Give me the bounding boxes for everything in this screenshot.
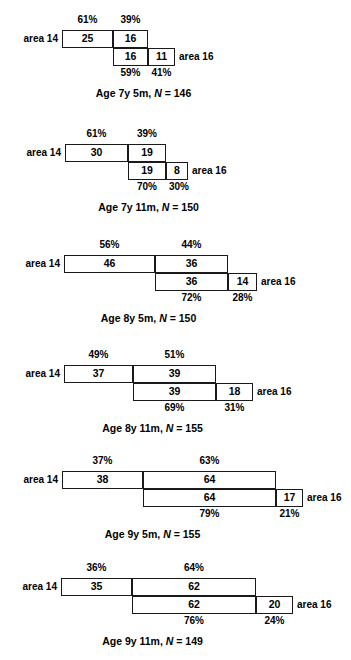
bottom-percent-left: 69% xyxy=(133,402,216,414)
bottom-cell-left-value: 36 xyxy=(155,273,228,290)
bottom-percent-left: 70% xyxy=(128,181,166,193)
bottom-percent-right: 31% xyxy=(216,402,253,414)
bottom-percent-right: 30% xyxy=(166,181,192,193)
axis-label-area-14: area 14 xyxy=(0,147,61,159)
panel-age-7y-11m: 61% 39% area 14 30 19 19 8 area 16 70% 3… xyxy=(0,110,351,220)
bottom-percent-right: 21% xyxy=(276,508,303,520)
panel-age-9y-11m: 36% 64% area 14 35 62 62 20 area 16 76% … xyxy=(0,550,351,660)
axis-label-area-16: area 16 xyxy=(192,165,252,177)
top-cell-left-value: 25 xyxy=(62,30,113,47)
panel-caption: Age 8y 5m, N = 150 xyxy=(0,312,297,324)
bottom-cell-left-value: 39 xyxy=(133,383,216,400)
caption-suffix: = 150 xyxy=(167,312,197,324)
bottom-percent-right: 28% xyxy=(228,292,257,304)
bottom-cell-left-value: 19 xyxy=(128,162,166,179)
axis-label-area-16: area 16 xyxy=(307,492,351,504)
top-cell-left-value: 38 xyxy=(62,471,143,488)
caption-suffix: = 150 xyxy=(169,201,199,213)
bottom-cell-right-value: 8 xyxy=(166,162,188,179)
bottom-cell-right-value: 18 xyxy=(216,383,253,400)
caption-prefix: Age 8y 11m, xyxy=(102,422,166,434)
bottom-cell-right-value: 20 xyxy=(256,596,293,613)
axis-label-area-14: area 14 xyxy=(0,33,58,45)
axis-label-area-16: area 16 xyxy=(261,276,321,288)
caption-prefix: Age 9y 11m, xyxy=(102,635,166,647)
bottom-cell-left-value: 64 xyxy=(143,489,276,506)
caption-suffix: = 149 xyxy=(173,635,203,647)
top-percent-left: 36% xyxy=(61,562,132,574)
top-percent-left: 49% xyxy=(64,349,133,361)
bottom-cell-left-value: 62 xyxy=(132,596,256,613)
top-cell-left-value: 37 xyxy=(64,365,133,382)
panel-age-8y-11m: 49% 51% area 14 37 39 39 18 area 16 69% … xyxy=(0,335,351,445)
caption-symbol-N: N xyxy=(163,528,171,540)
panel-age-8y-5m: 56% 44% area 14 46 36 36 14 area 16 72% … xyxy=(0,225,351,335)
bottom-percent-right: 24% xyxy=(256,615,293,627)
bottom-percent-left: 72% xyxy=(155,292,228,304)
bottom-percent-left: 59% xyxy=(113,67,148,79)
panel-caption: Age 9y 5m, N = 155 xyxy=(0,528,305,540)
top-percent-right: 51% xyxy=(133,349,216,361)
caption-symbol-N: N xyxy=(159,312,167,324)
top-percent-right: 64% xyxy=(132,562,256,574)
top-percent-left: 61% xyxy=(62,14,113,26)
axis-label-area-14: area 14 xyxy=(0,258,60,270)
axis-label-area-14: area 14 xyxy=(0,368,60,380)
top-percent-left: 37% xyxy=(62,455,143,467)
top-cell-right-value: 36 xyxy=(155,255,228,272)
top-cell-left-value: 46 xyxy=(64,255,155,272)
caption-suffix: = 155 xyxy=(173,422,203,434)
top-cell-right-value: 39 xyxy=(133,365,216,382)
caption-suffix: = 146 xyxy=(162,87,192,99)
bottom-percent-right: 41% xyxy=(148,67,175,79)
panel-age-9y-5m: 37% 63% area 14 38 64 64 17 area 16 79% … xyxy=(0,445,351,550)
top-percent-right: 39% xyxy=(128,128,166,140)
axis-label-area-16: area 16 xyxy=(179,51,239,63)
top-cell-right-value: 64 xyxy=(143,471,276,488)
bottom-cell-right-value: 14 xyxy=(228,273,257,290)
top-cell-left-value: 35 xyxy=(61,578,132,595)
panel-caption: Age 7y 11m, N = 150 xyxy=(0,201,297,213)
top-percent-left: 61% xyxy=(65,128,128,140)
top-percent-right: 44% xyxy=(155,239,228,251)
bottom-cell-right-value: 11 xyxy=(148,48,175,65)
top-cell-left-value: 30 xyxy=(65,144,128,161)
top-percent-right: 63% xyxy=(143,455,276,467)
panel-caption: Age 8y 11m, N = 155 xyxy=(0,422,305,434)
panel-caption: Age 9y 11m, N = 149 xyxy=(0,635,305,647)
caption-prefix: Age 9y 5m, xyxy=(105,528,163,540)
top-cell-right-value: 19 xyxy=(128,144,166,161)
axis-label-area-16: area 16 xyxy=(297,599,351,611)
bottom-percent-left: 76% xyxy=(132,615,256,627)
bottom-cell-right-value: 17 xyxy=(276,489,303,506)
axis-label-area-14: area 14 xyxy=(0,474,58,486)
caption-symbol-N: N xyxy=(154,87,162,99)
bottom-cell-left-value: 16 xyxy=(113,48,148,65)
caption-prefix: Age 8y 5m, xyxy=(101,312,159,324)
top-percent-left: 56% xyxy=(64,239,155,251)
caption-prefix: Age 7y 11m, xyxy=(98,201,162,213)
panel-age-7y-5m: 61% 39% area 14 25 16 16 11 area 16 59% … xyxy=(0,0,351,110)
top-percent-right: 39% xyxy=(113,14,148,26)
caption-suffix: = 155 xyxy=(171,528,201,540)
axis-label-area-16: area 16 xyxy=(257,386,317,398)
axis-label-area-14: area 14 xyxy=(0,581,57,593)
top-cell-right-value: 16 xyxy=(113,30,148,47)
panel-caption: Age 7y 5m, N = 146 xyxy=(0,87,287,99)
bottom-percent-left: 79% xyxy=(143,508,276,520)
caption-prefix: Age 7y 5m, xyxy=(96,87,154,99)
top-cell-right-value: 62 xyxy=(132,578,256,595)
